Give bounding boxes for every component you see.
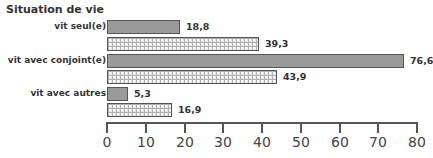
- bar: [107, 37, 259, 51]
- category-label: vit avec conjoint(e): [8, 55, 106, 65]
- x-tick: [145, 122, 147, 133]
- bar: [107, 54, 404, 68]
- x-tick-label: 60: [331, 134, 349, 150]
- x-tick-label: 30: [214, 134, 232, 150]
- x-tick-label: 0: [103, 134, 112, 150]
- x-tick-label: 10: [137, 134, 155, 150]
- x-tick-label: 80: [408, 134, 426, 150]
- x-tick-label: 50: [292, 134, 310, 150]
- bar-value-label: 76,6: [410, 55, 433, 66]
- bar-value-label: 16,9: [178, 104, 201, 115]
- bar-value-label: 18,8: [186, 21, 209, 32]
- x-tick-label: 70: [369, 134, 387, 150]
- x-tick: [377, 122, 379, 133]
- bar-value-label: 39,3: [265, 38, 288, 49]
- x-tick: [106, 122, 108, 133]
- bar-value-label: 5,3: [134, 88, 151, 99]
- category-label: vit seul(e): [54, 21, 106, 31]
- bar: [107, 20, 180, 34]
- chart-title: Situation de vie: [6, 3, 104, 16]
- bar-value-label: 43,9: [283, 71, 306, 82]
- bar: [107, 103, 172, 117]
- x-tick: [222, 122, 224, 133]
- x-tick: [184, 122, 186, 133]
- bar: [107, 87, 128, 101]
- x-tick: [339, 122, 341, 133]
- x-tick: [416, 122, 418, 133]
- x-tick: [300, 122, 302, 133]
- x-tick: [261, 122, 263, 133]
- category-label: vit avec autres: [30, 88, 106, 98]
- x-tick-label: 40: [253, 134, 271, 150]
- bar: [107, 70, 277, 84]
- x-tick-label: 20: [176, 134, 194, 150]
